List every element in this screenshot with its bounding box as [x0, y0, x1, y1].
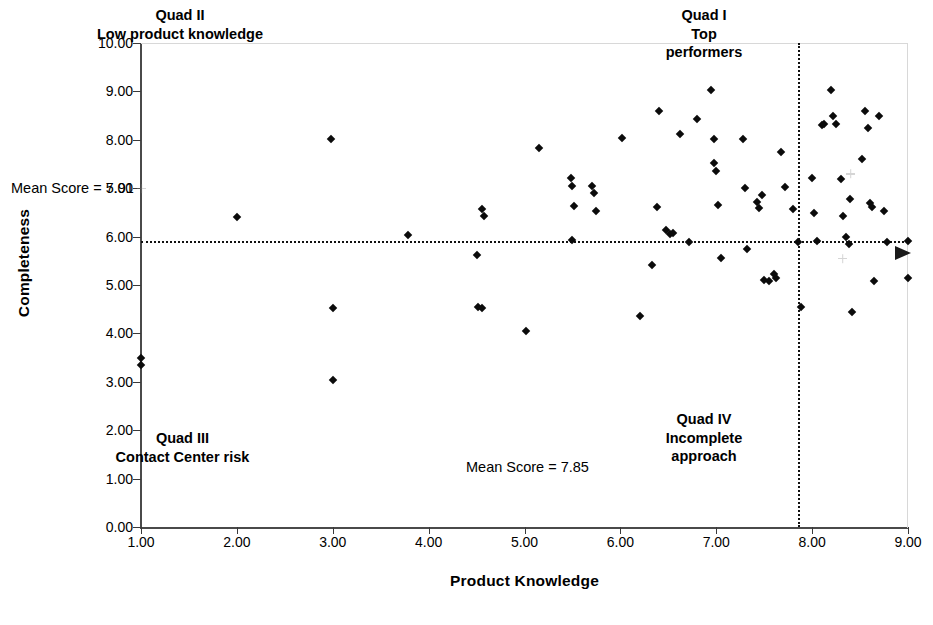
x-axis-tick-mark — [908, 527, 909, 534]
y-axis-tick-label: 5.00 — [71, 277, 133, 293]
x-axis-tick-mark — [333, 527, 334, 534]
data-point — [137, 353, 145, 361]
x-axis-tick-label: 4.00 — [397, 534, 461, 550]
data-point — [789, 204, 797, 212]
x-axis-tick-label: 6.00 — [588, 534, 652, 550]
data-point — [717, 254, 725, 262]
data-point — [589, 189, 597, 197]
y-axis-tick-label: 8.00 — [71, 132, 133, 148]
y-axis-tick-label: 0.00 — [71, 519, 133, 535]
data-point — [710, 159, 718, 167]
quadrant-4-label: Quad IV Incomplete approach — [640, 410, 768, 466]
x-axis-tick-mark — [620, 527, 621, 534]
data-point — [861, 107, 869, 115]
data-point — [592, 207, 600, 215]
data-point — [839, 212, 847, 220]
x-axis-tick-label: 2.00 — [205, 534, 269, 550]
y-axis-tick-mark — [133, 333, 141, 334]
y-axis-tick-mark — [133, 237, 141, 238]
y-axis-tick-mark — [133, 43, 141, 44]
x-axis-tick-label: 5.00 — [493, 534, 557, 550]
x-axis-tick-mark — [237, 527, 238, 534]
faint-data-marker — [838, 254, 847, 263]
data-point — [710, 135, 718, 143]
data-point — [858, 155, 866, 163]
data-point — [233, 213, 241, 221]
data-point — [685, 238, 693, 246]
data-point — [693, 115, 701, 123]
mean-product-knowledge-label: Mean Score = 7.85 — [466, 459, 589, 475]
data-point — [568, 236, 576, 244]
y-axis-tick-mark — [133, 382, 141, 383]
data-point — [570, 202, 578, 210]
data-point — [478, 304, 486, 312]
x-axis-tick-mark — [429, 527, 430, 534]
y-axis-tick-label: 9.00 — [71, 83, 133, 99]
mean-product-knowledge-reference-line — [798, 43, 800, 527]
data-point — [712, 167, 720, 175]
data-point — [808, 173, 816, 181]
y-axis-tick-mark — [133, 285, 141, 286]
data-point — [848, 307, 856, 315]
x-axis-tick-label: 1.00 — [109, 534, 173, 550]
data-point — [648, 260, 656, 268]
data-point — [403, 231, 411, 239]
data-point — [829, 111, 837, 119]
data-point — [635, 312, 643, 320]
data-point — [618, 134, 626, 142]
y-axis-tick-label: 1.00 — [71, 471, 133, 487]
data-point — [837, 175, 845, 183]
quadrant-1-label: Quad I Top performers — [644, 6, 764, 62]
data-point — [653, 202, 661, 210]
mean-completeness-label: Mean Score = 5.91 — [11, 180, 134, 196]
data-point — [714, 201, 722, 209]
y-axis-tick-mark — [133, 479, 141, 480]
x-axis-title: Product Knowledge — [141, 572, 908, 590]
faint-data-marker — [846, 169, 855, 178]
y-axis-tick-mark — [133, 140, 141, 141]
x-axis-tick-label: 3.00 — [301, 534, 365, 550]
data-point — [327, 135, 335, 143]
x-axis-tick-label: 8.00 — [780, 534, 844, 550]
data-point — [883, 238, 891, 246]
y-axis-title: Completeness — [4, 0, 44, 525]
data-point — [827, 86, 835, 94]
data-point — [810, 209, 818, 217]
data-point — [707, 86, 715, 94]
data-point — [568, 182, 576, 190]
quadrant-3-label: Quad III Contact Center risk — [70, 429, 295, 466]
data-point — [654, 107, 662, 115]
data-point — [522, 327, 530, 335]
data-point — [566, 173, 574, 181]
x-axis-tick-mark — [525, 527, 526, 534]
scatter-chart: Completeness 0.001.002.003.004.005.006.0… — [0, 0, 933, 625]
data-point — [781, 183, 789, 191]
x-axis-tick-mark — [812, 527, 813, 534]
data-point — [777, 148, 785, 156]
x-axis-tick-label: 7.00 — [684, 534, 748, 550]
x-axis-tick-mark — [141, 527, 142, 534]
y-axis-title-text: Completeness — [15, 208, 33, 316]
x-axis-tick-mark — [716, 527, 717, 534]
data-point — [739, 135, 747, 143]
data-point — [846, 195, 854, 203]
data-point — [329, 304, 337, 312]
y-axis-tick-label: 6.00 — [71, 229, 133, 245]
data-point — [741, 184, 749, 192]
y-axis-tick-label: 3.00 — [71, 374, 133, 390]
data-point — [870, 277, 878, 285]
data-point — [793, 238, 801, 246]
right-arrow-marker — [895, 246, 911, 260]
data-point — [880, 207, 888, 215]
data-point — [480, 212, 488, 220]
data-point — [813, 237, 821, 245]
data-point — [329, 376, 337, 384]
y-axis-tick-mark — [133, 527, 141, 528]
faint-data-marker — [137, 184, 146, 193]
data-point — [904, 273, 912, 281]
data-point — [535, 143, 543, 151]
data-point — [472, 251, 480, 259]
data-point — [863, 123, 871, 131]
data-point — [676, 130, 684, 138]
data-point — [755, 203, 763, 211]
